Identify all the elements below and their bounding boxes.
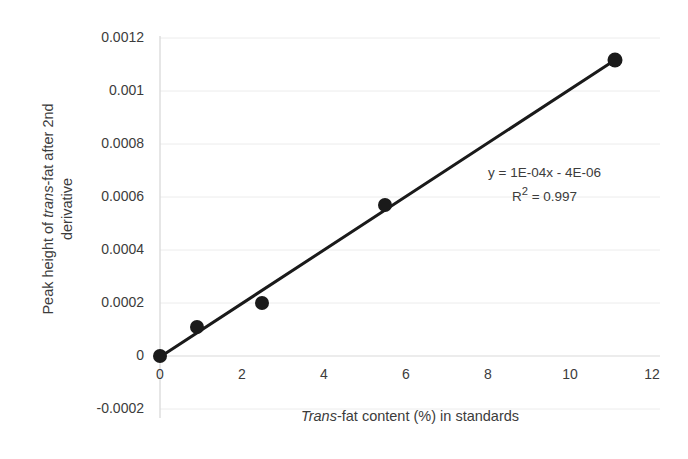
x-tick-label: 12 (644, 366, 660, 382)
x-tick-label: 0 (156, 366, 164, 382)
x-tick-label: 6 (402, 366, 410, 382)
regression-equation: y = 1E-04x - 4E-06 (488, 163, 601, 182)
x-tick-label: 10 (562, 366, 578, 382)
x-axis-tick-labels: 0 2 4 6 8 10 12 (0, 0, 688, 459)
x-tick-label: 4 (320, 366, 328, 382)
chart-figure: Peak height of trans-fat after 2nd deriv… (0, 0, 688, 459)
x-tick-label: 8 (484, 366, 492, 382)
x-axis-title: Trans-fat content (%) in standards (160, 408, 660, 424)
r-squared: R2 = 0.997 (488, 182, 601, 206)
regression-annotation: y = 1E-04x - 4E-06 R2 = 0.997 (488, 163, 601, 206)
x-tick-label: 2 (238, 366, 246, 382)
